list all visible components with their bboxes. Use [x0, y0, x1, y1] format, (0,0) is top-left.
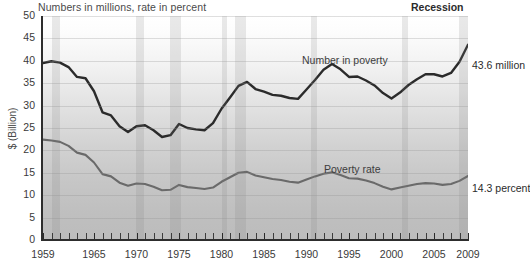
x-axis-major-tick [307, 233, 308, 239]
gridline [43, 173, 468, 174]
y-axis-tick-label: 5 [5, 211, 35, 223]
x-axis-minor-tick [239, 233, 240, 239]
y-axis-tick-label: 0 [5, 233, 35, 245]
x-axis-tick-label: 1995 [337, 248, 360, 260]
gridline [43, 16, 468, 17]
x-axis-minor-tick [315, 233, 316, 239]
recession-legend-label: Recession [411, 1, 464, 13]
x-axis-minor-tick [196, 233, 197, 239]
y-axis-tick-label: 35 [5, 76, 35, 88]
x-axis-minor-tick [111, 233, 112, 239]
y-axis-tick-label: 40 [5, 54, 35, 66]
gridline [43, 38, 468, 39]
poverty-rate-end-value: 14.3 percent [472, 182, 530, 194]
y-axis-tick-label: 15 [5, 166, 35, 178]
y-axis-tick-label: 30 [5, 99, 35, 111]
number-in-poverty-label: Number in poverty [302, 54, 388, 66]
y-axis-tick-label: 45 [5, 31, 35, 43]
x-axis-minor-tick [332, 233, 333, 239]
x-axis-tick-label: 1990 [295, 248, 318, 260]
x-axis-minor-tick [273, 233, 274, 239]
x-axis-major-tick [434, 233, 435, 239]
x-axis-minor-tick [341, 233, 342, 239]
y-axis-tick-label: 50 [5, 9, 35, 21]
x-axis-minor-tick [69, 233, 70, 239]
x-axis-minor-tick [460, 233, 461, 239]
x-axis-minor-tick [281, 233, 282, 239]
x-axis-minor-tick [417, 233, 418, 239]
y-axis-tick-label: 10 [5, 188, 35, 200]
x-axis-tick-label: 1959 [31, 248, 54, 260]
x-axis-ticks [43, 233, 469, 240]
x-axis-minor-tick [230, 233, 231, 239]
x-axis-minor-tick [324, 233, 325, 239]
x-axis-minor-tick [400, 233, 401, 239]
x-axis-minor-tick [366, 233, 367, 239]
x-axis-minor-tick [409, 233, 410, 239]
x-axis-minor-tick [375, 233, 376, 239]
x-axis-major-tick [264, 233, 265, 239]
x-axis-minor-tick [120, 233, 121, 239]
x-axis-major-tick [222, 233, 223, 239]
x-axis-minor-tick [298, 233, 299, 239]
x-axis-minor-tick [426, 233, 427, 239]
x-axis-tick-label: 1970 [125, 248, 148, 260]
x-axis-minor-tick [145, 233, 146, 239]
x-axis-minor-tick [213, 233, 214, 239]
gridline [43, 61, 468, 62]
y-axis-tick-label: 20 [5, 143, 35, 155]
number-in-poverty-end-value: 43.6 million [472, 59, 525, 71]
x-axis-major-tick [43, 233, 44, 239]
x-axis-minor-tick [188, 233, 189, 239]
x-axis-minor-tick [103, 233, 104, 239]
x-axis-tick-label: 2005 [422, 248, 445, 260]
x-axis-minor-tick [77, 233, 78, 239]
x-axis-major-tick [392, 233, 393, 239]
y-axis-line [41, 16, 43, 241]
x-axis-tick-label: 1965 [82, 248, 105, 260]
x-axis-major-tick [468, 233, 469, 239]
gridline [43, 195, 468, 196]
x-axis-major-tick [179, 233, 180, 239]
gridline [43, 150, 468, 151]
chart-title: Numbers in millions, rate in percent [38, 1, 206, 13]
x-axis-minor-tick [52, 233, 53, 239]
x-axis-minor-tick [60, 233, 61, 239]
poverty-rate-label: Poverty rate [324, 163, 381, 175]
x-axis-minor-tick [256, 233, 257, 239]
x-axis-tick-label: 2009 [456, 248, 479, 260]
x-axis-minor-tick [290, 233, 291, 239]
x-axis-tick-label: 1975 [167, 248, 190, 260]
x-axis-minor-tick [171, 233, 172, 239]
x-axis-minor-tick [128, 233, 129, 239]
x-axis-minor-tick [247, 233, 248, 239]
gridline [43, 83, 468, 84]
gridline [43, 218, 468, 219]
x-axis-minor-tick [205, 233, 206, 239]
x-axis-major-tick [137, 233, 138, 239]
gridline [43, 106, 468, 107]
x-axis-tick-label: 1980 [210, 248, 233, 260]
x-axis-major-tick [94, 233, 95, 239]
x-axis-minor-tick [383, 233, 384, 239]
x-axis-major-tick [349, 233, 350, 239]
x-axis-minor-tick [86, 233, 87, 239]
x-axis-minor-tick [443, 233, 444, 239]
x-axis-minor-tick [154, 233, 155, 239]
x-axis-tick-label: 2000 [380, 248, 403, 260]
gridline [43, 128, 468, 129]
y-axis-tick-label: 25 [5, 121, 35, 133]
x-axis-tick-labels: 1959196519701975198019851990199520002005… [43, 248, 469, 262]
plot-area [43, 16, 468, 240]
x-axis-minor-tick [451, 233, 452, 239]
x-axis-tick-label: 1985 [252, 248, 275, 260]
x-axis-minor-tick [358, 233, 359, 239]
x-axis-minor-tick [162, 233, 163, 239]
